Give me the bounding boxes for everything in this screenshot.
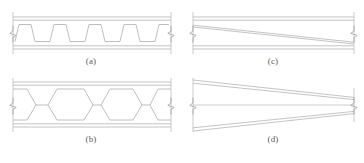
- panel-b-caption: (b): [0, 134, 182, 144]
- panel-d-double-tapered-web: [190, 78, 357, 132]
- panel-d-caption: (d): [182, 134, 364, 144]
- panel-a-caption: (a): [0, 56, 182, 66]
- panel-d-top-flange-inner: [193, 83, 354, 99]
- panel-d-bottom-flange-inner: [193, 111, 354, 127]
- panel-b-castellated-web: [10, 78, 174, 132]
- panel-c-caption: (c): [182, 56, 364, 66]
- panel-b-hexagon-opening-1: [13, 89, 36, 120]
- panel-b-hexagon-opening-4: [150, 89, 171, 120]
- panel-d-top-flange-outer: [193, 80, 354, 97]
- figure-container: (a) (c) (b) (d): [0, 0, 364, 163]
- panel-c-taper-line-upper: [193, 25, 354, 42]
- panel-c-taper-line-lower: [193, 27, 354, 44]
- panel-a-corrugation-profile: [15, 25, 169, 42]
- panel-d-bottom-flange-outer: [193, 114, 354, 131]
- panel-c-single-tapered-web: [190, 12, 357, 54]
- panel-b-hexagon-opening-2: [48, 89, 93, 120]
- panel-b-hexagon-opening-3: [101, 89, 142, 120]
- panel-a-corrugated-web: [10, 12, 174, 54]
